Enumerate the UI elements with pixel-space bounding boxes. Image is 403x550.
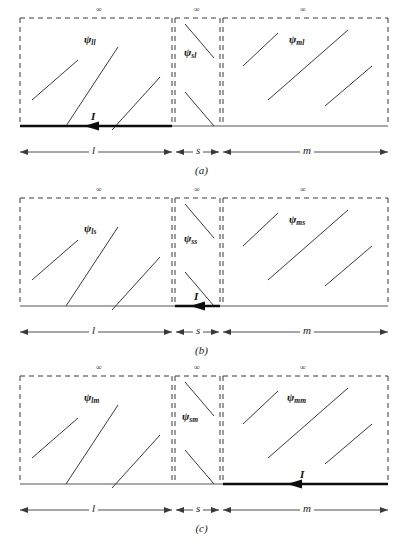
panel-b-graphics [0, 180, 403, 365]
panel-caption: (c) [0, 522, 403, 534]
psi-label-s: ψsm [182, 410, 198, 422]
hatch-line [325, 246, 372, 286]
psi-subscript: ll [91, 38, 95, 47]
panel-a: ∞ ∞ ∞ ψll ψsl ψml I l s m (a) [0, 0, 403, 185]
psi-subscript: lm [91, 396, 99, 405]
psi-label-l: ψll [84, 33, 96, 45]
hatch-line [185, 272, 214, 306]
hatch-line [243, 391, 278, 424]
dimension-label-m: m [300, 144, 314, 156]
hatch-line [112, 77, 160, 130]
hatch-line [66, 227, 118, 306]
psi-subscript: ml [296, 38, 304, 47]
hatch-line [325, 424, 372, 464]
hatch-line [325, 66, 372, 106]
hatch-line [243, 33, 278, 66]
hatch-line [185, 92, 214, 126]
infinity-label-m: ∞ [300, 186, 306, 194]
psi-label-s: ψss [184, 232, 197, 244]
dimension-label-m: m [300, 324, 314, 336]
figure-container: ∞ ∞ ∞ ψll ψsl ψml I l s m (a) [0, 0, 403, 550]
hatch-line [32, 418, 78, 458]
psi-subscript: ms [296, 218, 305, 227]
hatch-line [66, 405, 118, 484]
dimension-label-s: s [193, 144, 203, 156]
psi-subscript: mm [294, 396, 306, 405]
hatch-line [268, 388, 348, 458]
current-label: I [91, 110, 95, 122]
psi-subscript: ss [191, 237, 197, 246]
panel-c: ∞ ∞ ∞ ψlm ψsm ψmm I l s m (c) [0, 358, 403, 543]
psi-label-m: ψms [289, 213, 305, 225]
psi-label-l: ψls [84, 222, 96, 234]
dimension-label-l: l [89, 502, 98, 514]
infinity-label-l: ∞ [96, 364, 102, 372]
infinity-label-s: ∞ [194, 6, 200, 14]
infinity-label-l: ∞ [96, 6, 102, 14]
current-arrow [223, 480, 388, 489]
infinity-label-m: ∞ [300, 6, 306, 14]
hatch-line [32, 240, 78, 280]
panel-a-graphics [0, 0, 403, 185]
dimension-label-s: s [193, 324, 203, 336]
psi-subscript: sm [189, 415, 198, 424]
hatch-line [112, 435, 160, 488]
hatch-line [268, 30, 348, 100]
dimension-lines [20, 507, 388, 513]
dimension-label-m: m [300, 502, 314, 514]
current-label: I [300, 468, 304, 480]
current-arrow [20, 122, 172, 131]
hatch-line [185, 450, 214, 484]
dimension-label-l: l [89, 324, 98, 336]
psi-label-s: ψsl [184, 46, 196, 58]
infinity-label-s: ∞ [194, 364, 200, 372]
panel-caption: (b) [0, 344, 403, 356]
psi-label-m: ψmm [287, 391, 306, 403]
psi-label-l: ψlm [84, 391, 99, 403]
hatch-line [112, 257, 160, 310]
psi-label-m: ψml [289, 33, 304, 45]
hatch-line [32, 60, 78, 100]
hatch-line [243, 213, 278, 246]
panel-caption: (a) [0, 164, 403, 176]
panel-c-graphics [0, 358, 403, 543]
dimension-lines [20, 329, 388, 335]
dimension-lines [20, 149, 388, 155]
current-arrow [175, 302, 220, 311]
psi-subscript: ls [91, 227, 96, 236]
hatch-line [268, 210, 348, 280]
infinity-label-l: ∞ [96, 186, 102, 194]
dimension-label-l: l [89, 144, 98, 156]
infinity-label-m: ∞ [300, 364, 306, 372]
psi-subscript: sl [191, 51, 196, 60]
panel-b: ∞ ∞ ∞ ψls ψss ψms I l s m (b) [0, 180, 403, 365]
current-label: I [194, 290, 198, 302]
infinity-label-s: ∞ [194, 186, 200, 194]
dimension-label-s: s [193, 502, 203, 514]
